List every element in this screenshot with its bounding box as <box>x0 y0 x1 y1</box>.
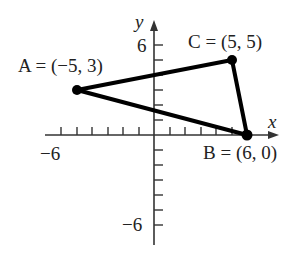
point-c <box>227 55 237 65</box>
x-tick-label-neg6: −6 <box>40 143 60 164</box>
x-axis-label: x <box>267 111 277 132</box>
y-axis-arrow-icon <box>150 20 158 31</box>
point-a <box>72 85 82 95</box>
point-b <box>242 130 253 141</box>
y-axis-label: y <box>133 11 144 32</box>
x-axis-arrow-icon <box>268 131 279 139</box>
x-ticks <box>61 127 232 135</box>
y-tick-label-neg6: −6 <box>122 214 142 235</box>
triangle-diagram: y x 6 −6 −6 A = (−5, 3) C = (5, 5) B = (… <box>0 0 301 263</box>
point-b-label: B = (6, 0) <box>203 142 277 164</box>
point-a-label: A = (−5, 3) <box>18 55 103 77</box>
y-tick-label-6: 6 <box>137 35 147 56</box>
point-c-label: C = (5, 5) <box>188 31 262 53</box>
